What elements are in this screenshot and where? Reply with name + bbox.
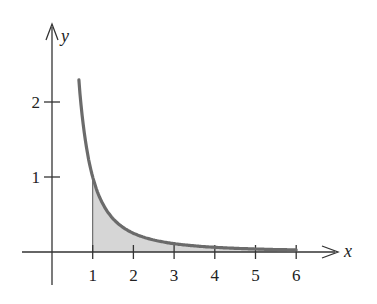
shaded-area	[93, 177, 297, 252]
x-tick-label: 5	[251, 266, 260, 285]
x-tick-label: 4	[211, 266, 220, 285]
x-tick-label: 2	[129, 266, 138, 285]
y-tick-label: 2	[32, 93, 41, 112]
x-tick-label: 1	[88, 266, 97, 285]
tick-labels: 12345612	[32, 93, 301, 285]
y-axis-label: y	[59, 26, 69, 46]
area-under-curve	[93, 177, 297, 252]
y-tick-label: 1	[32, 168, 41, 187]
x-tick-label: 3	[170, 266, 179, 285]
x-axis-label: x	[343, 241, 352, 261]
chart: 12345612 x y	[0, 0, 377, 304]
x-tick-label: 6	[292, 266, 301, 285]
